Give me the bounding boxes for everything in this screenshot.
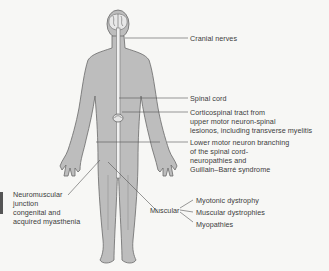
neuromuscular-line: congenital and xyxy=(13,208,80,217)
neuromuscular-line: acquired myasthenia xyxy=(13,217,80,226)
label-muscular: Muscular xyxy=(150,206,180,215)
corticospinal-line: lesionos, including transverse myelitis xyxy=(190,126,312,135)
muscular-heading: Muscular xyxy=(150,206,180,215)
body-diagram xyxy=(0,0,329,271)
label-spinal-cord: Spinal cord xyxy=(190,94,227,103)
muscular-item: Myotonic dystrophy xyxy=(196,195,265,207)
neuromuscular-line: Neuromuscular xyxy=(13,190,80,199)
muscular-conditions-list: Myotonic dystrophy Muscular dystrophies … xyxy=(196,195,265,231)
corticospinal-line: Corticospinal tract from xyxy=(190,108,312,117)
neuromuscular-line: junction xyxy=(13,199,80,208)
corticospinal-line: upper motor neuron-spinal xyxy=(190,117,312,126)
lower-motor-line: Lower motor neuron branching xyxy=(190,138,289,147)
cranial-nerves-text: Cranial nerves xyxy=(190,34,237,43)
label-corticospinal-tract: Corticospinal tract from upper motor neu… xyxy=(190,108,312,135)
lower-motor-line: neuropathies and xyxy=(190,156,289,165)
label-neuromuscular-junction: Neuromuscular junction congenital and ac… xyxy=(13,190,80,226)
spinal-cord-text: Spinal cord xyxy=(190,94,227,103)
muscular-item: Myopathies xyxy=(196,219,265,231)
label-lower-motor-neuron: Lower motor neuron branching of the spin… xyxy=(190,138,289,174)
lower-motor-line: of the spinal cord- xyxy=(190,147,289,156)
muscular-item: Muscular dystrophies xyxy=(196,207,265,219)
brain xyxy=(109,14,127,30)
label-cranial-nerves: Cranial nerves xyxy=(190,34,237,43)
lower-motor-line: Guillain–Barré syndrome xyxy=(190,165,289,174)
